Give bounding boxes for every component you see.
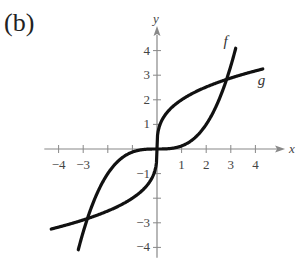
y-axis-label: y <box>151 11 159 26</box>
y-tick-label: −3 <box>136 215 150 230</box>
x-tick-label: −4 <box>52 157 66 172</box>
y-tick-label: −1 <box>136 166 150 181</box>
y-tick-label: 2 <box>144 92 151 107</box>
y-tick-label: 1 <box>144 116 151 131</box>
y-tick-label: 4 <box>144 43 151 58</box>
x-axis-label: x <box>288 141 295 156</box>
x-tick-label: 1 <box>178 157 185 172</box>
function-graph: xy−4−31234−4−3−11234fg <box>0 0 303 272</box>
curve-label-g: g <box>258 72 266 88</box>
x-tick-label: 2 <box>203 157 210 172</box>
x-tick-label: 4 <box>252 157 259 172</box>
x-tick-label: −3 <box>76 157 90 172</box>
y-tick-label: 3 <box>144 67 151 82</box>
x-tick-label: 3 <box>228 157 235 172</box>
curve-label-f: f <box>223 33 229 49</box>
y-axis-arrow-icon <box>154 26 161 36</box>
y-tick-label: −4 <box>136 239 150 254</box>
